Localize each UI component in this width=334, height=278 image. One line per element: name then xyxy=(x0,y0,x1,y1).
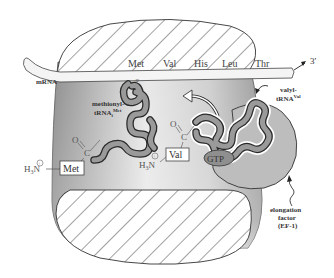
valyl-trna-pointer-arrow xyxy=(258,86,268,91)
svg-text:O: O xyxy=(72,135,79,145)
translation-elongation-diagram: mRNA 3′ Met Val His Leu Thr ≋ methionyl-… xyxy=(0,0,334,278)
codon-thr: Thr xyxy=(255,58,270,69)
svg-text:C: C xyxy=(84,148,90,158)
codon-val: Val xyxy=(163,58,177,69)
valyl-trna-label-line2: tRNAVal xyxy=(276,94,301,103)
methionyl-trna-label-line1: methionyl- xyxy=(92,100,125,108)
gtp: GTP xyxy=(204,150,234,166)
anticodon-marks-icon: ≋ xyxy=(135,78,139,83)
ef1-pointer-arrow xyxy=(289,178,294,206)
met-residue-label: Met xyxy=(63,163,79,174)
val-residue-label: Val xyxy=(169,149,183,160)
svg-text:+: + xyxy=(153,154,156,159)
valyl-trna-label-line1: valyl- xyxy=(280,86,297,94)
small-subunit-hatched xyxy=(56,190,251,264)
mrna-label: mRNA xyxy=(36,78,57,86)
svg-text:C: C xyxy=(181,132,187,142)
ef1-label-line1: elongation xyxy=(270,206,301,214)
ef1-label-line3: (EF-1) xyxy=(278,222,298,230)
svg-text:+: + xyxy=(38,161,41,166)
codon-met: Met xyxy=(128,58,144,69)
mrna-3prime-label: 3′ xyxy=(310,56,317,66)
gtp-label: GTP xyxy=(207,154,224,164)
codon-his: His xyxy=(194,58,208,69)
ef1-label-line2: factor xyxy=(278,214,296,222)
codon-leu: Leu xyxy=(222,58,238,69)
